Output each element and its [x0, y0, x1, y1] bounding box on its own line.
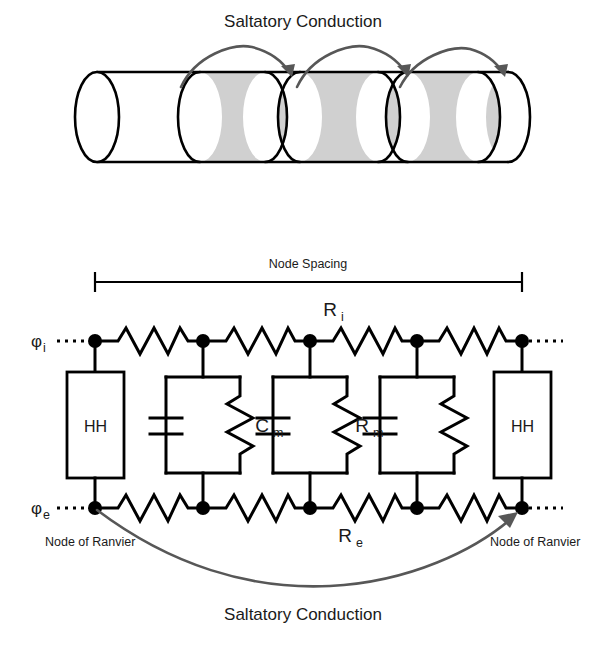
node-dot-bottom-4	[410, 501, 424, 515]
extracellular-resistor-1	[95, 495, 203, 521]
axon-left-cap	[75, 72, 119, 162]
node-spacing-bracket: Node Spacing	[95, 257, 522, 292]
node-dot-bottom-3	[303, 501, 317, 515]
axial-resistor-1	[95, 328, 203, 354]
extracellular-resistance-label: R e	[338, 525, 363, 550]
extracellular-resistor-3	[310, 495, 417, 521]
node-of-ranvier-label-right: Node of Ranvier	[490, 535, 580, 549]
re-symbol: R	[338, 525, 352, 546]
phi-i-subscript: i	[43, 341, 46, 355]
node-dot-top-4	[410, 334, 424, 348]
node-spacing-label: Node Spacing	[269, 257, 348, 271]
saltatory-conduction-figure: Saltatory Conduction	[0, 0, 607, 650]
axial-resistor-3	[310, 328, 417, 354]
rc1-membrane-resistor	[227, 377, 253, 473]
axon-caption: Saltatory Conduction	[224, 12, 382, 31]
figure-canvas: Saltatory Conduction	[0, 0, 607, 650]
node-of-ranvier-label-left: Node of Ranvier	[45, 535, 135, 549]
phi-i-symbol: φ	[31, 332, 42, 351]
node-dot-top-2	[196, 334, 210, 348]
membrane-rc-branch-3	[364, 377, 467, 508]
circuit-panel: Node Spacing R i φ i	[31, 257, 580, 624]
axial-resistor-4	[417, 328, 522, 354]
hh-block-left: HH	[67, 372, 124, 478]
extracellular-resistor-2	[203, 495, 310, 521]
node-dot-top-3	[303, 334, 317, 348]
membrane-rc-branch-2	[257, 377, 360, 508]
cm-symbol: C	[255, 415, 269, 436]
axon-right-cap	[508, 72, 530, 162]
axial-resistance-symbol: R	[323, 299, 337, 320]
saltatory-long-arc	[97, 510, 512, 586]
rc3-membrane-resistor	[441, 377, 467, 473]
re-subscript: e	[356, 536, 363, 550]
rm-subscript: m	[373, 426, 383, 440]
axial-resistance-label: R i	[323, 299, 344, 324]
phi-e-subscript: e	[43, 508, 50, 522]
cm-subscript: m	[273, 426, 283, 440]
intracellular-potential-label: φ i	[31, 332, 46, 355]
rm-symbol: R	[355, 415, 369, 436]
axon-tube	[75, 72, 530, 162]
saltatory-conduction-arrow	[97, 510, 518, 586]
phi-e-symbol: φ	[31, 499, 42, 518]
node-dot-top-5	[515, 334, 529, 348]
membrane-rc-branch-1	[150, 377, 253, 508]
extracellular-potential-label: φ e	[31, 499, 50, 522]
axon-panel: Saltatory Conduction	[75, 12, 530, 162]
axial-resistor-2	[203, 328, 310, 354]
hh-right-label: HH	[511, 418, 534, 435]
node-dot-bottom-2	[196, 501, 210, 515]
axial-resistance-subscript: i	[341, 310, 344, 324]
circuit-caption: Saltatory Conduction	[224, 605, 382, 624]
hh-block-right: HH	[494, 372, 551, 478]
node-dot-top-1	[88, 334, 102, 348]
hh-left-label: HH	[84, 418, 107, 435]
